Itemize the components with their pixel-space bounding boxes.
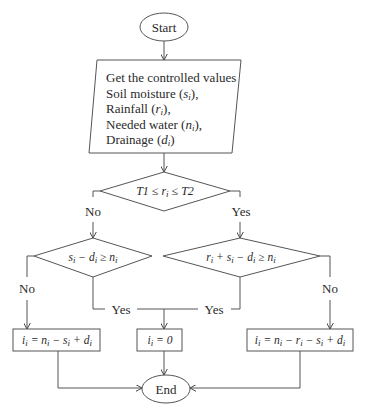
decision-2-condition: si − di ≥ ni bbox=[68, 250, 117, 265]
end-label: End bbox=[156, 382, 177, 397]
d1-no-line-top bbox=[93, 191, 100, 197]
arrow-left-to-end bbox=[58, 351, 142, 388]
d3-yes-line bbox=[231, 277, 240, 309]
input-text: Get the controlled values Soil moisture … bbox=[106, 70, 236, 148]
d2-yes-line bbox=[93, 277, 105, 309]
input-line-4: Drainage (di) bbox=[106, 132, 236, 148]
d1-yes-line-top bbox=[230, 191, 240, 197]
input-line-3: Needed water (ni), bbox=[106, 117, 236, 133]
input-line-2: Rainfall (ri), bbox=[106, 101, 236, 117]
decision-1-yes-label: Yes bbox=[232, 204, 251, 219]
decision-2-yes-label: Yes bbox=[112, 302, 131, 317]
decision-2-no-label: No bbox=[19, 281, 35, 296]
decision-3-no-label: No bbox=[322, 281, 338, 296]
process-right-formula: ii = ni − ri − si + di bbox=[255, 333, 345, 348]
decision-1-condition: T1 ≤ ri ≤ T2 bbox=[136, 184, 194, 199]
decision-3-yes-label: Yes bbox=[205, 302, 224, 317]
decision-1-no-label: No bbox=[85, 204, 101, 219]
flowchart-canvas bbox=[0, 0, 366, 413]
arrow-right-to-end bbox=[190, 351, 300, 388]
input-line-0: Get the controlled values bbox=[106, 70, 236, 86]
process-left-formula: ii = ni − si + di bbox=[22, 333, 92, 348]
start-label: Start bbox=[152, 20, 177, 35]
decision-3-condition: ri + si − di ≥ ni bbox=[206, 250, 276, 265]
input-line-1: Soil moisture (si), bbox=[106, 86, 236, 102]
process-center-formula: ii = 0 bbox=[148, 333, 173, 348]
